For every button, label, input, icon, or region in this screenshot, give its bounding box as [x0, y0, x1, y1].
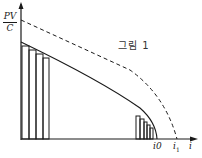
x-tick-i1: i1 — [173, 142, 180, 153]
figure-caption: 그림 1 — [118, 37, 150, 52]
y-axis-label: PV C — [3, 12, 17, 33]
y-axis-label-numerator: PV — [3, 12, 17, 23]
solid-curve — [21, 42, 157, 139]
x-tick-i1-sub: 1 — [176, 146, 180, 153]
x-axis-label: i — [189, 142, 192, 151]
left-bars — [22, 46, 49, 139]
diagram-canvas — [0, 0, 202, 158]
y-axis-label-denominator: C — [3, 23, 17, 33]
y-axis-arrow-icon — [19, 2, 24, 9]
dashed-line — [21, 20, 177, 139]
x-tick-i0: i0 — [153, 142, 162, 151]
